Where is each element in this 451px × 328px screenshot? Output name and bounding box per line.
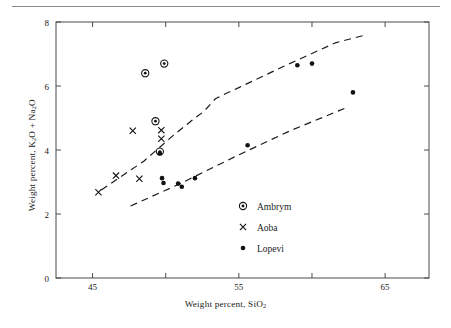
axis-tick-labels: 45556502468 — [45, 18, 391, 293]
legend-label: Ambrym — [257, 202, 292, 212]
series-aoba — [95, 127, 164, 195]
y-axis-label-post: O — [27, 99, 37, 106]
axis-ticks — [56, 22, 429, 278]
y-axis-label-mid: O + Na — [27, 109, 37, 137]
reference-line-lower-alkaline-boundary — [131, 107, 349, 206]
x-axis-label-subscript: 2 — [263, 302, 266, 309]
series-lopevi — [158, 61, 356, 189]
reference-line-upper-alkaline-boundary — [101, 35, 366, 190]
legend-item-ambrym: Ambrym — [239, 202, 292, 212]
svg-text:55: 55 — [234, 282, 244, 292]
svg-text:0: 0 — [45, 274, 50, 284]
legend-item-lopevi: Lopevi — [241, 244, 285, 254]
y-axis-label: Weight percent, K2O + Na2O — [27, 45, 37, 265]
svg-text:45: 45 — [88, 282, 98, 292]
y-axis-label-sub1: 2 — [30, 138, 37, 141]
x-axis-label-text: Weight percent, SiO — [185, 299, 263, 309]
svg-text:6: 6 — [45, 82, 50, 92]
y-axis-label-sub2: 2 — [30, 106, 37, 109]
svg-text:8: 8 — [45, 18, 50, 28]
y-axis-label-pre: Weight percent, K — [27, 141, 37, 211]
data-points — [95, 60, 355, 195]
svg-text:4: 4 — [45, 146, 50, 156]
svg-text:65: 65 — [381, 282, 391, 292]
x-axis-label: Weight percent, SiO2 — [0, 299, 451, 309]
plot-legend: AmbrymAobaLopevi — [239, 202, 292, 254]
legend-label: Lopevi — [257, 244, 284, 254]
legend-item-aoba: Aoba — [240, 223, 278, 233]
svg-text:2: 2 — [45, 210, 50, 220]
legend-label: Aoba — [257, 223, 278, 233]
plot-frame — [56, 22, 429, 278]
figure-container: 45556502468 AmbrymAobaLopevi Weight perc… — [0, 0, 451, 328]
scatter-plot-svg: 45556502468 AmbrymAobaLopevi — [0, 0, 451, 328]
